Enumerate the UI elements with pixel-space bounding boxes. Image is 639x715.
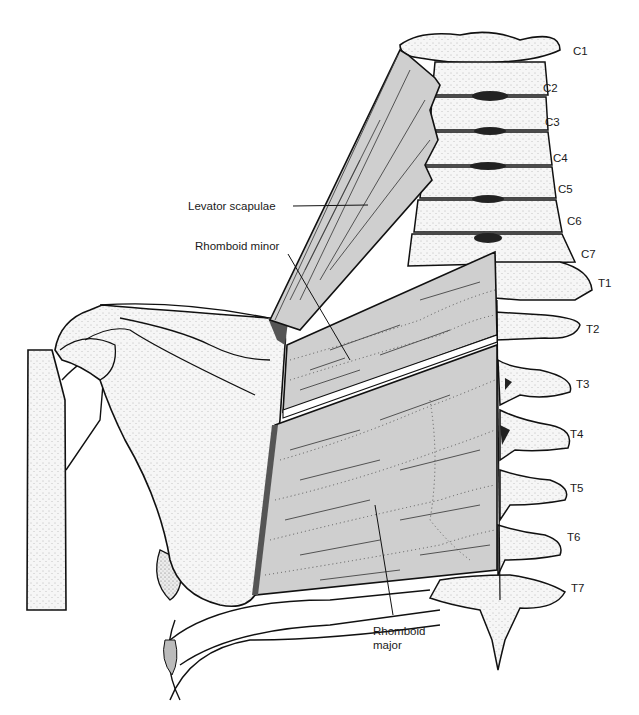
vertebra-label-t5: T5 [570,482,583,494]
vertebra-label-c1: C1 [573,45,588,57]
vertebra-label-c6: C6 [567,215,582,227]
vertebra-label-c3: C3 [545,116,560,128]
vertebra-label-t7: T7 [571,582,584,594]
anatomy-illustration: Levator scapulae Rhomboid minor Rhomboid… [0,0,639,715]
vertebra-label-t4: T4 [570,428,584,440]
humerus [27,350,105,610]
label-rhomboid-major-1: Rhomboid [373,625,425,637]
vertebra-label-t3: T3 [576,378,589,390]
vertebra-label-c7: C7 [581,248,596,260]
label-levator-scapulae: Levator scapulae [188,200,276,212]
vertebra-label-c2: C2 [543,82,558,94]
anatomy-svg: Levator scapulae Rhomboid minor Rhomboid… [0,0,639,715]
label-rhomboid-minor: Rhomboid minor [195,240,280,252]
vertebra-label-t2: T2 [586,323,599,335]
vertebra-label-t6: T6 [567,531,580,543]
label-rhomboid-major-2: major [373,639,402,651]
vertebra-label-t1: T1 [598,277,611,289]
scapula [55,304,288,606]
vertebra-label-c4: C4 [553,152,568,164]
vertebra-label-c5: C5 [558,183,573,195]
